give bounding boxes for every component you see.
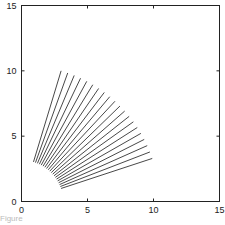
data-lines xyxy=(33,71,152,189)
y-tick-label: 15 xyxy=(6,1,16,11)
x-tick-label: 10 xyxy=(148,205,158,215)
data-line xyxy=(59,139,145,182)
axis-ticks: 051015051015 xyxy=(6,1,224,216)
x-tick-label: 5 xyxy=(85,205,90,215)
figure-caption: Figure xyxy=(0,214,23,223)
data-line xyxy=(35,73,67,163)
y-tick-label: 0 xyxy=(11,197,16,207)
y-tick-label: 5 xyxy=(11,131,16,141)
chart-plot: 051015051015 xyxy=(0,0,225,225)
data-line xyxy=(60,152,150,187)
y-tick-label: 10 xyxy=(6,66,16,76)
data-line xyxy=(41,81,86,165)
data-line xyxy=(61,158,152,188)
x-tick-label: 15 xyxy=(214,205,224,215)
